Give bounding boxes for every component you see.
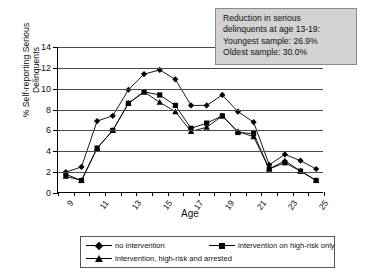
x-axis-tick (121, 192, 122, 196)
gridline (58, 110, 323, 111)
annotation-line-3: Youngest sample: 26.9% (223, 36, 350, 47)
x-axis-tick (308, 192, 309, 196)
x-axis-tick (277, 192, 278, 196)
y-axis-tick (53, 47, 58, 48)
series-lines-and-markers (58, 47, 324, 193)
chart-canvas: % Self-reporting Serious Delinquents 024… (0, 0, 365, 275)
x-axis-tick-label: 9 (65, 198, 76, 208)
square-marker (173, 103, 178, 108)
legend-item-no-intervention[interactable]: no intervention (86, 241, 165, 250)
series-line (66, 70, 316, 172)
x-axis-tick (74, 192, 75, 196)
legend-label: intervention, high-risk and arrested (115, 254, 232, 263)
y-axis-tick-label: 0 (46, 188, 51, 198)
x-axis-tick (89, 192, 90, 196)
x-axis-tick (214, 192, 215, 196)
legend-item-high-risk-only[interactable]: intervention on high-risk only (209, 241, 335, 250)
gridline (58, 172, 323, 173)
diamond-marker (172, 76, 178, 82)
square-marker-icon (209, 241, 235, 250)
diamond-marker (204, 102, 210, 108)
y-axis-tick-label: 4 (46, 146, 51, 156)
diamond-marker (110, 113, 116, 119)
diamond-marker (297, 158, 303, 164)
chart-legend: no intervention intervention on high-ris… (80, 236, 335, 268)
gridline (58, 130, 323, 131)
diamond-marker-icon (86, 241, 112, 250)
x-axis-tick (136, 192, 137, 196)
gridline (58, 68, 323, 69)
annotation-line-4: Oldest sample: 30.0% (223, 47, 350, 58)
legend-item-high-risk-and-arrested[interactable]: intervention, high-risk and arrested (86, 254, 232, 263)
y-axis-tick (53, 151, 58, 152)
x-axis-tick (230, 192, 231, 196)
legend-label: intervention on high-risk only (238, 241, 335, 250)
annotation-box: Reduction in serious delinquents at age … (215, 8, 357, 65)
y-axis-tick-label: 6 (46, 125, 51, 135)
gridline (58, 151, 323, 152)
annotation-line-2: delinquents at age 13-19: (223, 24, 350, 35)
diamond-marker (94, 118, 100, 124)
legend-label: no intervention (115, 241, 165, 250)
x-axis-tick (324, 192, 325, 196)
x-axis-tick (105, 192, 106, 196)
y-axis-tick-label: 14 (41, 42, 51, 52)
annotation-line-1: Reduction in serious (223, 13, 350, 24)
y-axis-tick (53, 89, 58, 90)
diamond-marker (78, 164, 84, 170)
y-axis-title: % Self-reporting Serious Delinquents (21, 0, 41, 145)
x-axis-tick (199, 192, 200, 196)
diamond-marker (250, 119, 256, 125)
x-axis-tick (152, 192, 153, 196)
gridline (58, 89, 323, 90)
y-axis-tick (53, 172, 58, 173)
y-axis-tick-label: 2 (46, 167, 51, 177)
x-axis-tick (183, 192, 184, 196)
y-axis-tick (53, 110, 58, 111)
y-axis-tick-label: 8 (46, 105, 51, 115)
y-axis-tick (53, 130, 58, 131)
diamond-marker (188, 102, 194, 108)
y-axis-tick-label: 12 (41, 63, 51, 73)
square-marker (157, 92, 162, 97)
triangle-marker (157, 99, 163, 105)
y-axis-tick-label: 10 (41, 84, 51, 94)
x-axis-tick (168, 192, 169, 196)
plot-area: 0246810121491113151719212325 (57, 47, 323, 193)
y-axis-tick (53, 68, 58, 69)
triangle-marker-icon (86, 254, 112, 263)
x-axis-tick (261, 192, 262, 196)
x-axis-tick (58, 192, 59, 196)
x-axis-tick (246, 192, 247, 196)
x-axis-tick (293, 192, 294, 196)
x-axis-title: Age (57, 208, 323, 219)
